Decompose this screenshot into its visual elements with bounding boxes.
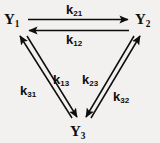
node-label-y3: Y3 [70, 124, 86, 139]
rate-label-k21: k21 [66, 3, 82, 16]
node-label-y1: Y1 [4, 12, 20, 27]
edge-arrow-k13 [27, 36, 77, 117]
node-label-y2: Y2 [135, 12, 151, 27]
rate-label-k13: k13 [53, 73, 69, 86]
rate-label-k12: k12 [66, 33, 82, 46]
rate-label-k32: k32 [113, 90, 129, 103]
kinetic-scheme-diagram: Y1 Y2 Y3 k21 k12 k31 k13 k23 k32 [0, 0, 160, 143]
rate-label-k31: k31 [20, 84, 36, 97]
rate-label-k23: k23 [82, 73, 98, 86]
edge-arrow-k32 [91, 36, 140, 118]
